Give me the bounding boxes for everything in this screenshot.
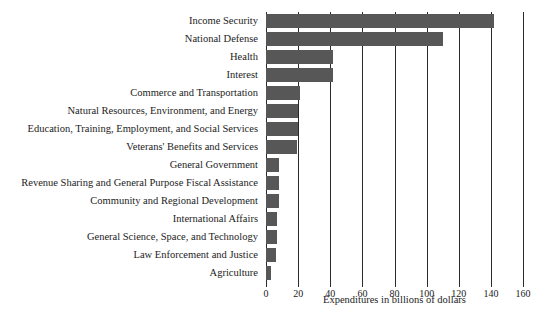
tick-mark <box>491 282 492 287</box>
tick-mark <box>298 282 299 287</box>
bar-chart: Income SecurityNational DefenseHealthInt… <box>0 0 543 310</box>
tick-mark <box>427 282 428 287</box>
tick-mark <box>459 282 460 287</box>
tick-mark <box>523 282 524 287</box>
tick-mark <box>330 282 331 287</box>
tick-mark <box>266 282 267 287</box>
x-axis-ticks: 020406080100120140160 <box>0 0 543 310</box>
tick-mark <box>395 282 396 287</box>
x-axis-title: Expenditures in billions of dollars <box>266 294 523 305</box>
tick-mark <box>362 282 363 287</box>
